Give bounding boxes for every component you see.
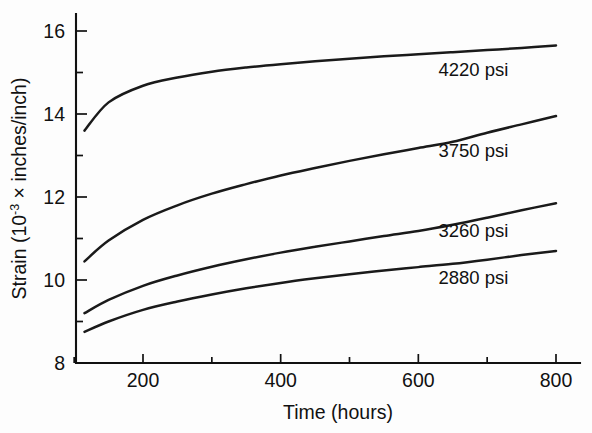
x-tick-label: 400 [264, 369, 297, 391]
series-label-4220-psi: 4220 psi [438, 59, 508, 80]
chart-canvas: 200400600800 810121416 4220 psi3750 psi3… [0, 0, 592, 433]
y-axis-tick-labels: 810121416 [43, 20, 65, 374]
series-label-3260-psi: 3260 psi [438, 220, 508, 241]
creep-strain-chart-figure: 200400600800 810121416 4220 psi3750 psi3… [0, 0, 592, 433]
x-tick-label: 800 [540, 369, 573, 391]
y-tick-label: 14 [43, 103, 65, 125]
y-axis-title: Strain (10-3 × inches/inch) [8, 78, 30, 300]
series-label-2880-psi: 2880 psi [438, 267, 508, 288]
curve-2880-psi [84, 251, 556, 332]
axis-tick-marks [74, 31, 556, 363]
x-axis-tick-labels: 200400600800 [127, 369, 573, 391]
data-curves [84, 46, 556, 332]
series-inline-labels: 4220 psi3750 psi3260 psi2880 psi [438, 59, 508, 287]
y-tick-label: 16 [43, 20, 65, 42]
y-tick-label: 8 [54, 352, 65, 374]
y-tick-label: 12 [43, 186, 65, 208]
series-label-3750-psi: 3750 psi [438, 140, 508, 161]
x-tick-label: 600 [402, 369, 435, 391]
curve-4220-psi [84, 46, 556, 131]
x-axis-title: Time (hours) [283, 401, 393, 423]
y-tick-label: 10 [43, 269, 65, 291]
x-tick-label: 200 [127, 369, 160, 391]
